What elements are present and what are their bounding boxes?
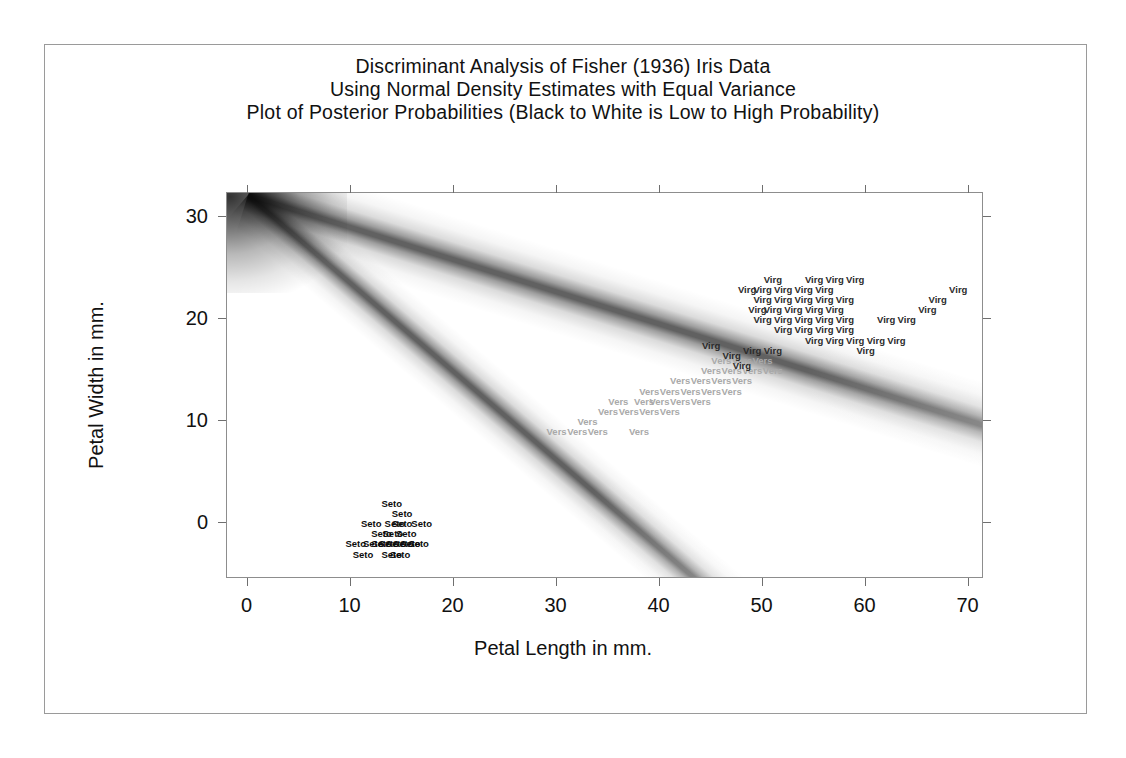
- data-label-virg: Virg: [774, 324, 792, 335]
- x-tick-mark-top: [247, 185, 248, 193]
- data-label-virg: Virg: [795, 314, 813, 325]
- x-tick-mark: [659, 578, 660, 586]
- data-label-virg: Virg: [753, 283, 771, 294]
- y-tick-mark: [218, 318, 226, 319]
- data-label-virg: Virg: [733, 360, 751, 371]
- data-label-seto: Seto: [408, 538, 429, 549]
- data-label-virg: Virg: [887, 334, 905, 345]
- data-label-vers: Vers: [588, 426, 608, 437]
- data-label-virg: Virg: [836, 324, 854, 335]
- data-label-vers: Vers: [701, 385, 721, 396]
- data-label-virg: Virg: [815, 283, 833, 294]
- data-label-vers: Vers: [763, 365, 783, 376]
- x-tick-label: 50: [750, 594, 772, 617]
- y-tick-label: 30: [166, 205, 208, 228]
- data-label-virg: Virg: [949, 283, 967, 294]
- data-label-virg: Virg: [836, 293, 854, 304]
- data-label-vers: Vers: [639, 385, 659, 396]
- data-label-virg: Virg: [774, 314, 792, 325]
- x-tick-mark: [968, 578, 969, 586]
- y-tick-label: 20: [166, 307, 208, 330]
- data-label-vers: Vers: [650, 395, 670, 406]
- data-label-virg: Virg: [805, 273, 823, 284]
- data-label-vers: Vers: [722, 385, 742, 396]
- data-label-vers: Vers: [680, 385, 700, 396]
- data-label-virg: Virg: [774, 293, 792, 304]
- y-tick-label: 10: [166, 409, 208, 432]
- chart-title-line-3: Plot of Posterior Probabilities (Black t…: [0, 101, 1126, 124]
- y-tick-mark-right: [983, 216, 991, 217]
- y-tick-mark: [218, 420, 226, 421]
- data-label-virg: Virg: [846, 273, 864, 284]
- data-label-virg: Virg: [805, 304, 823, 315]
- data-label-virg: Virg: [795, 283, 813, 294]
- chart-title-line-1: Discriminant Analysis of Fisher (1936) I…: [0, 55, 1126, 78]
- chart-title-line-2: Using Normal Density Estimates with Equa…: [0, 78, 1126, 101]
- data-label-vers: Vers: [691, 395, 711, 406]
- y-tick-label: 0: [166, 510, 208, 533]
- x-tick-mark: [453, 578, 454, 586]
- data-label-vers: Vers: [639, 405, 659, 416]
- x-tick-mark: [350, 578, 351, 586]
- data-label-virg: Virg: [774, 283, 792, 294]
- data-label-vers: Vers: [660, 405, 680, 416]
- data-label-virg: Virg: [815, 293, 833, 304]
- x-tick-label: 40: [647, 594, 669, 617]
- y-tick-mark-right: [983, 420, 991, 421]
- x-tick-mark-top: [453, 185, 454, 193]
- data-label-virg: Virg: [795, 293, 813, 304]
- data-label-vers: Vers: [547, 426, 567, 437]
- x-tick-label: 20: [441, 594, 463, 617]
- data-label-virg: Virg: [753, 293, 771, 304]
- y-tick-mark-right: [983, 522, 991, 523]
- data-label-vers: Vers: [732, 375, 752, 386]
- data-label-vers: Vers: [629, 426, 649, 437]
- data-label-virg: Virg: [836, 314, 854, 325]
- data-label-virg: Virg: [743, 344, 761, 355]
- data-label-seto: Seto: [390, 548, 411, 559]
- data-label-vers: Vers: [691, 375, 711, 386]
- x-tick-mark: [865, 578, 866, 586]
- x-tick-label: 70: [956, 594, 978, 617]
- data-label-virg: Virg: [826, 304, 844, 315]
- data-label-virg: Virg: [784, 304, 802, 315]
- x-tick-label: 10: [338, 594, 360, 617]
- plot-area: SetoSetoSetoSetoSetoSetoSetoSetoSetoSeto…: [226, 192, 983, 578]
- data-label-virg: Virg: [856, 344, 874, 355]
- data-label-virg: Virg: [826, 273, 844, 284]
- data-label-vers: Vers: [753, 355, 773, 366]
- y-tick-mark: [218, 216, 226, 217]
- x-tick-mark-top: [968, 185, 969, 193]
- data-label-virg: Virg: [815, 324, 833, 335]
- x-axis-label: Petal Length in mm.: [0, 637, 1126, 660]
- x-tick-mark: [556, 578, 557, 586]
- x-tick-mark-top: [350, 185, 351, 193]
- data-label-vers: Vers: [670, 375, 690, 386]
- data-label-virg: Virg: [826, 334, 844, 345]
- x-tick-mark: [247, 578, 248, 586]
- x-tick-mark-top: [659, 185, 660, 193]
- x-tick-mark-top: [762, 185, 763, 193]
- x-tick-mark-top: [865, 185, 866, 193]
- data-label-vers: Vers: [711, 375, 731, 386]
- density-corner-glow: [226, 192, 347, 293]
- chart-title-block: Discriminant Analysis of Fisher (1936) I…: [0, 55, 1126, 124]
- x-tick-label: 60: [853, 594, 875, 617]
- data-label-virg: Virg: [815, 314, 833, 325]
- y-tick-mark: [218, 522, 226, 523]
- data-label-vers: Vers: [660, 385, 680, 396]
- data-label-virg: Virg: [764, 273, 782, 284]
- x-tick-label: 0: [241, 594, 252, 617]
- data-label-virg: Virg: [928, 293, 946, 304]
- data-label-virg: Virg: [898, 314, 916, 325]
- data-label-virg: Virg: [702, 339, 720, 350]
- data-label-vers: Vers: [670, 395, 690, 406]
- y-tick-mark-right: [983, 318, 991, 319]
- data-label-virg: Virg: [877, 314, 895, 325]
- data-label-virg: Virg: [805, 334, 823, 345]
- data-label-virg: Virg: [795, 324, 813, 335]
- data-label-vers: Vers: [567, 426, 587, 437]
- x-tick-mark-top: [556, 185, 557, 193]
- x-tick-mark: [762, 578, 763, 586]
- data-label-vers: Vers: [598, 405, 618, 416]
